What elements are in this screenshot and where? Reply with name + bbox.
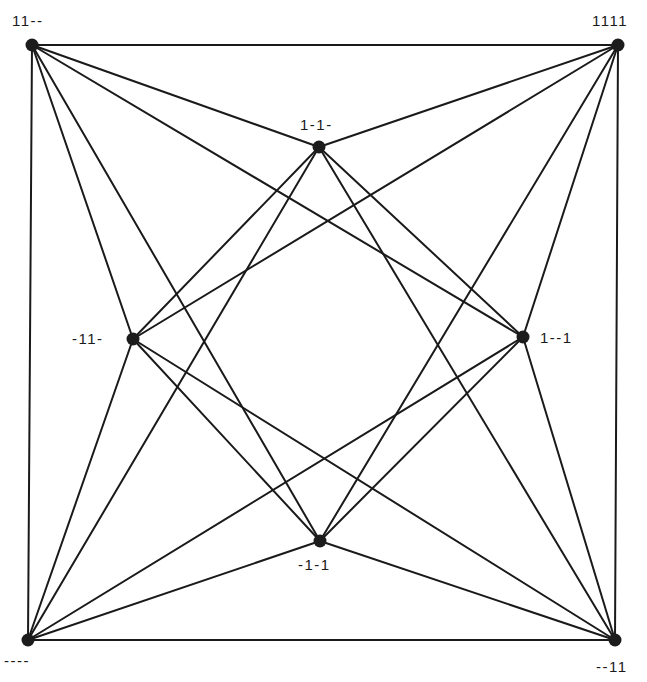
- vertex-A: [26, 39, 39, 52]
- vertex-label: 1--1: [540, 329, 573, 346]
- edge-D-F: [133, 339, 320, 541]
- label-layer: 11--11111-1--11-1--1-1-1------11: [4, 12, 628, 675]
- vertex-C: [313, 141, 326, 154]
- edge-G-C: [28, 147, 319, 640]
- vertex-label: -1-1: [298, 556, 331, 573]
- edge-G-A: [28, 45, 32, 640]
- graph-diagram: 11--11111-1--11-1--1-1-1------11: [0, 0, 647, 682]
- edge-B-E: [523, 45, 618, 337]
- vertex-F: [314, 535, 327, 548]
- edge-E-C: [319, 147, 523, 337]
- edge-H-E: [523, 337, 615, 640]
- vertex-label: 11--: [12, 12, 44, 29]
- edge-A-C: [32, 45, 319, 147]
- vertex-label: ----: [4, 652, 30, 669]
- vertex-H: [609, 634, 622, 647]
- edge-G-E: [28, 337, 523, 640]
- edge-G-F: [28, 541, 320, 640]
- edge-A-F: [32, 45, 320, 541]
- edge-B-F: [320, 45, 618, 541]
- edge-H-F: [320, 541, 615, 640]
- vertex-B: [612, 39, 625, 52]
- edge-layer: [28, 45, 618, 640]
- vertex-label: 1111: [592, 12, 628, 29]
- edge-H-D: [133, 339, 615, 640]
- vertex-G: [22, 634, 35, 647]
- edge-F-E: [320, 337, 523, 541]
- edge-B-C: [319, 45, 618, 147]
- vertex-D: [127, 333, 140, 346]
- vertex-label: -11-: [72, 330, 104, 347]
- edge-B-H: [615, 45, 618, 640]
- vertex-label: 1-1-: [300, 116, 333, 133]
- vertex-label: --11: [596, 658, 628, 675]
- vertex-E: [517, 331, 530, 344]
- edge-B-D: [133, 45, 618, 339]
